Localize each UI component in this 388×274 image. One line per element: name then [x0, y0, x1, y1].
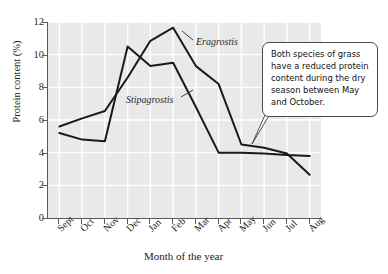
y-tick-mark — [42, 185, 47, 186]
callout-annotation: Both species of grass have a reduced pro… — [262, 42, 378, 117]
y-tick-mark — [42, 87, 47, 88]
y-tick-mark — [42, 153, 47, 154]
y-tick-mark — [42, 55, 47, 56]
series-label-eragrostis: Eragrostis — [196, 36, 238, 47]
protein-content-line-chart: 024681012 Protein content (%) SeptOctNov… — [0, 0, 388, 274]
series-label-stipagrostis: Stipagrostis — [126, 94, 173, 105]
y-tick-mark — [42, 120, 47, 121]
y-tick-mark — [42, 22, 47, 23]
y-tick-mark — [42, 218, 47, 219]
